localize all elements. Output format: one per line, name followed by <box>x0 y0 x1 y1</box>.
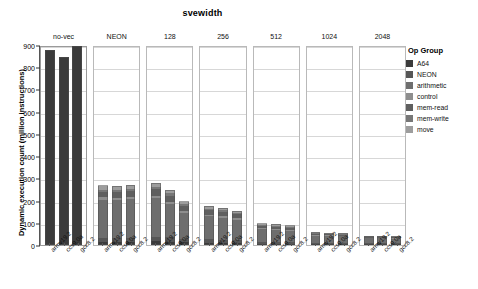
y-tick-label: 900 <box>23 43 35 50</box>
x-tick-mark <box>291 243 292 246</box>
x-tick-mark <box>64 243 65 246</box>
y-tick-label: 100 <box>23 220 35 227</box>
facet-panels: no-vecNEON12825651210242048 <box>40 46 406 246</box>
legend-swatch-icon <box>406 71 413 78</box>
facet-panel: 128 <box>146 46 193 246</box>
y-tick-label: 400 <box>23 154 35 161</box>
bar-segment <box>45 50 55 245</box>
bar-group <box>147 47 192 245</box>
bar-segment <box>311 236 321 243</box>
bar-segment <box>151 189 161 196</box>
stacked-bar[interactable] <box>204 206 214 245</box>
stacked-bar[interactable] <box>59 57 69 245</box>
bar-group <box>307 47 352 245</box>
x-label-group: armv19.2ccs9.0agcc8.2 <box>306 246 353 289</box>
stacked-bar[interactable] <box>72 46 82 245</box>
facet-panel: 1024 <box>306 46 353 246</box>
bar-segment <box>72 46 82 245</box>
legend: Op Group A64NEONarithmeticcontrolmem-rea… <box>406 46 472 136</box>
stacked-bar[interactable] <box>257 223 267 245</box>
facet-label: 512 <box>254 33 299 45</box>
facet-label: NEON <box>94 33 139 45</box>
y-axis-ticks: 0100200300400500600700800900 <box>0 46 40 246</box>
x-tick: ccs9.0a <box>165 246 175 289</box>
y-tick-label: 600 <box>23 109 35 116</box>
x-tick: gcc8.2 <box>73 246 83 289</box>
x-tick: ccs9.0a <box>218 246 228 289</box>
stacked-bar[interactable] <box>151 183 161 245</box>
x-tick: gcc8.2 <box>338 246 348 289</box>
legend-label: control <box>417 93 437 100</box>
x-tick: armv19.2 <box>363 246 373 289</box>
x-tick: armv19.2 <box>310 246 320 289</box>
x-tick: armv19.2 <box>257 246 267 289</box>
legend-swatch-icon <box>406 126 413 133</box>
x-tick: gcc8.2 <box>232 246 242 289</box>
legend-item[interactable]: mem-write <box>406 114 472 124</box>
legend-label: mem-read <box>417 104 448 111</box>
bar-segment <box>98 200 108 238</box>
facet-panel: 512 <box>253 46 300 246</box>
legend-item[interactable]: NEON <box>406 70 472 80</box>
legend-swatch-icon <box>406 60 413 67</box>
x-tick: gcc8.2 <box>179 246 189 289</box>
bar-segment <box>59 57 69 245</box>
bar-group <box>254 47 299 245</box>
stacked-bar[interactable] <box>45 50 55 245</box>
legend-swatch-icon <box>406 82 413 89</box>
stacked-bar[interactable] <box>98 185 108 245</box>
bar-segment <box>126 199 136 237</box>
bar-segment <box>151 198 161 236</box>
bar-segment <box>257 229 267 242</box>
x-tick: ccs9.0a <box>324 246 334 289</box>
x-tick: armv19.2 <box>97 246 107 289</box>
x-tick: gcc8.2 <box>285 246 295 289</box>
x-tick-mark <box>209 243 210 246</box>
legend-rows: A64NEONarithmeticcontrolmem-readmem-writ… <box>406 59 472 135</box>
facet-panel: no-vec <box>40 46 87 246</box>
x-tick: gcc8.2 <box>392 246 402 289</box>
x-label-group: armv19.2ccs9.0agcc8.2 <box>199 246 246 289</box>
x-tick: ccs9.0a <box>112 246 122 289</box>
legend-swatch-icon <box>406 93 413 100</box>
y-tick-label: 300 <box>23 176 35 183</box>
x-label-group: armv19.2ccs9.0agcc8.2 <box>359 246 406 289</box>
legend-label: A64 <box>417 60 429 67</box>
legend-label: move <box>417 126 434 133</box>
x-tick: gcc8.2 <box>126 246 136 289</box>
legend-item[interactable]: mem-read <box>406 103 472 113</box>
x-tick: ccs9.0a <box>377 246 387 289</box>
facet-panel: 2048 <box>359 46 406 246</box>
legend-item[interactable]: control <box>406 92 472 102</box>
facet-panel: 256 <box>199 46 246 246</box>
bar-group <box>360 47 405 245</box>
bar-segment <box>204 216 214 239</box>
y-tick-label: 200 <box>23 198 35 205</box>
facet-label: 1024 <box>307 33 352 45</box>
facet-label: 128 <box>147 33 192 45</box>
x-axis-labels: armv19.2ccs9.0agcc8.2armv19.2ccs9.0agcc8… <box>40 246 406 289</box>
facet-label: 256 <box>200 33 245 45</box>
y-tick-label: 700 <box>23 87 35 94</box>
bar-group <box>94 47 139 245</box>
x-label-group: armv19.2ccs9.0agcc8.2 <box>40 246 87 289</box>
legend-label: mem-write <box>417 115 449 122</box>
legend-label: arithmetic <box>417 82 446 89</box>
legend-title: Op Group <box>408 46 472 55</box>
facet-label: no-vec <box>41 33 86 45</box>
legend-item[interactable]: A64 <box>406 59 472 69</box>
x-label-group: armv19.2ccs9.0agcc8.2 <box>146 246 193 289</box>
legend-item[interactable]: arithmetic <box>406 81 472 91</box>
chart-root: svewidth Dynamic execution count (millio… <box>0 0 478 289</box>
facet-panel: NEON <box>93 46 140 246</box>
legend-item[interactable]: move <box>406 125 472 135</box>
x-tick: armv19.2 <box>150 246 160 289</box>
x-tick: ccs9.0a <box>58 246 68 289</box>
x-label-group: armv19.2ccs9.0agcc8.2 <box>93 246 140 289</box>
x-tick: ccs9.0a <box>271 246 281 289</box>
y-tick-label: 800 <box>23 65 35 72</box>
y-tick-label: 0 <box>31 243 35 250</box>
x-label-group: armv19.2ccs9.0agcc8.2 <box>253 246 300 289</box>
x-tick: armv19.2 <box>203 246 213 289</box>
facet-label: 2048 <box>360 33 405 45</box>
